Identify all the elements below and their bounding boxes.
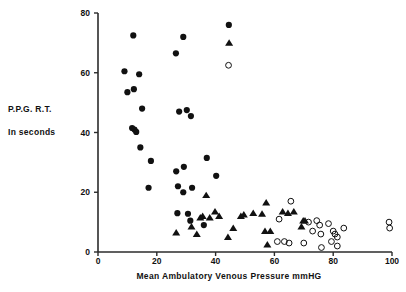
data-point-filled-circle — [131, 86, 137, 92]
data-point-filled-circle — [124, 89, 130, 95]
data-point-filled-circle — [121, 68, 127, 74]
data-point-filled-triangle — [262, 199, 270, 205]
data-point-filled-circle — [176, 108, 182, 114]
data-point-filled-triangle — [229, 225, 237, 231]
data-point-filled-circle — [175, 183, 181, 189]
y-axis-label-line-2: In seconds — [8, 127, 55, 137]
data-point-filled-circle — [184, 107, 190, 113]
y-axis-label-line-1: P.P.G. R.T. — [8, 104, 52, 114]
data-point-open-circle — [301, 240, 307, 246]
data-point-filled-triangle — [202, 192, 210, 198]
y-tick-label: 0 — [68, 247, 90, 257]
data-point-filled-circle — [137, 144, 143, 150]
data-point-filled-triangle — [266, 227, 274, 233]
x-tick-label: 80 — [328, 256, 337, 266]
data-point-filled-circle — [148, 158, 154, 164]
data-point-open-circle — [319, 245, 325, 251]
data-point-filled-triangle — [225, 39, 233, 45]
plot-canvas — [0, 0, 406, 292]
data-point-filled-circle — [173, 50, 179, 56]
data-point-filled-circle — [181, 164, 187, 170]
data-point-filled-triangle — [279, 208, 287, 214]
data-point-filled-circle — [213, 173, 219, 179]
data-point-filled-circle — [180, 189, 186, 195]
data-point-open-circle — [387, 225, 393, 231]
data-point-filled-circle — [204, 155, 210, 161]
data-point-open-circle — [329, 239, 335, 245]
data-point-filled-circle — [130, 32, 136, 38]
data-point-filled-triangle — [290, 208, 298, 214]
data-point-open-circle — [386, 219, 392, 225]
data-point-filled-circle — [187, 218, 193, 224]
y-tick-label: 80 — [68, 8, 90, 18]
data-point-filled-circle — [201, 222, 207, 228]
data-point-filled-triangle — [172, 229, 180, 235]
data-point-open-circle — [288, 198, 294, 204]
x-axis-label-text: Mean Ambulatory Venous Pressure mmHG — [84, 271, 321, 281]
data-point-filled-circle — [133, 129, 139, 135]
data-point-open-circle — [310, 228, 316, 234]
data-point-filled-circle — [173, 168, 179, 174]
data-point-filled-circle — [136, 71, 142, 77]
data-point-open-circle — [274, 239, 280, 245]
y-tick-label: 60 — [68, 68, 90, 78]
data-point-filled-circle — [145, 185, 151, 191]
data-point-open-circle — [276, 216, 282, 222]
data-points-group — [121, 22, 392, 251]
data-point-open-circle — [326, 221, 332, 227]
data-point-filled-triangle — [258, 210, 266, 216]
x-tick-label: 60 — [270, 256, 279, 266]
data-point-filled-triangle — [263, 241, 271, 247]
data-point-open-circle — [341, 225, 347, 231]
data-point-filled-circle — [180, 34, 186, 40]
data-point-filled-circle — [174, 210, 180, 216]
x-tick-label: 100 — [385, 256, 399, 266]
data-point-open-circle — [318, 231, 324, 237]
data-point-filled-triangle — [187, 223, 195, 229]
y-tick-label: 40 — [68, 128, 90, 138]
ticks-group — [94, 13, 392, 256]
data-point-filled-triangle — [249, 210, 257, 216]
data-point-open-circle — [317, 222, 323, 228]
data-point-filled-circle — [226, 22, 232, 28]
data-point-open-circle — [226, 62, 232, 68]
data-point-filled-triangle — [206, 214, 214, 220]
data-point-filled-triangle — [224, 233, 232, 239]
data-point-filled-circle — [188, 113, 194, 119]
data-point-filled-circle — [139, 106, 145, 112]
data-point-filled-triangle — [211, 208, 219, 214]
data-point-filled-circle — [185, 211, 191, 217]
scatter-plot-figure: P.P.G. R.T. In seconds Mean Ambulatory V… — [0, 0, 406, 292]
data-point-filled-triangle — [193, 230, 201, 236]
data-point-open-circle — [334, 243, 340, 249]
x-tick-label: 20 — [152, 256, 161, 266]
data-point-filled-triangle — [297, 223, 305, 229]
x-tick-label: 0 — [96, 256, 101, 266]
x-tick-label: 40 — [211, 256, 220, 266]
x-axis-label: Mean Ambulatory Venous Pressure mmHG — [0, 271, 406, 281]
data-point-filled-circle — [189, 185, 195, 191]
y-tick-label: 20 — [68, 187, 90, 197]
